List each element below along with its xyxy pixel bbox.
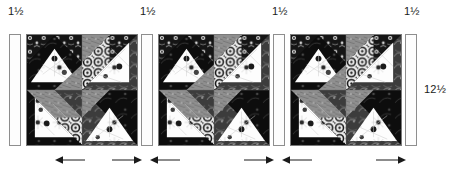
dimension-label-strip-1: 1½ (8, 6, 24, 17)
arrow-right-3 (376, 155, 406, 167)
arrow-left-3 (282, 155, 312, 167)
arrow-right-2 (244, 155, 274, 167)
arrow-right-1 (112, 155, 142, 167)
quilt-block-1 (26, 34, 138, 146)
sashing-strip-4 (405, 34, 417, 146)
dimension-label-strip-2: 1½ (140, 6, 156, 17)
sashing-strip-3 (273, 34, 285, 146)
sashing-strip-1 (9, 34, 21, 146)
quilt-block-1-graphic (27, 35, 137, 145)
dimension-label-block-height: 12½ (424, 84, 446, 95)
quilt-assembly-diagram: 1½ 1½ 1½ 1½ 12½ (0, 0, 453, 171)
dimension-label-strip-3: 1½ (272, 6, 288, 17)
arrow-left-2 (150, 155, 180, 167)
quilt-block-2-graphic (159, 35, 269, 145)
arrow-left-1 (55, 155, 85, 167)
quilt-block-3 (290, 34, 402, 146)
quilt-block-3-graphic (291, 35, 401, 145)
quilt-block-2 (158, 34, 270, 146)
sashing-strip-2 (141, 34, 153, 146)
dimension-label-strip-4: 1½ (404, 6, 420, 17)
